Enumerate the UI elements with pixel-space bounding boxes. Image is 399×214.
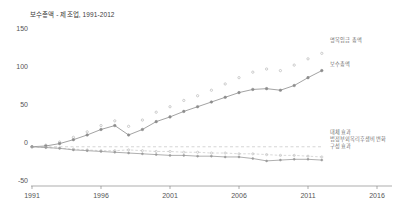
series-명목임금 총액	[31, 52, 323, 148]
chart-container: 보수총액 - 제조업, 1991-2012 150 100 50 0 -50 1…	[0, 0, 399, 214]
series-법정부외복리후생비 변화	[31, 146, 323, 158]
series-보수총액	[31, 69, 323, 148]
chart-plot-area	[0, 0, 399, 214]
x-axis-ticks	[32, 186, 377, 189]
series-구성 효과	[31, 146, 323, 162]
axis-lines	[31, 186, 392, 189]
series-layer	[31, 52, 323, 162]
